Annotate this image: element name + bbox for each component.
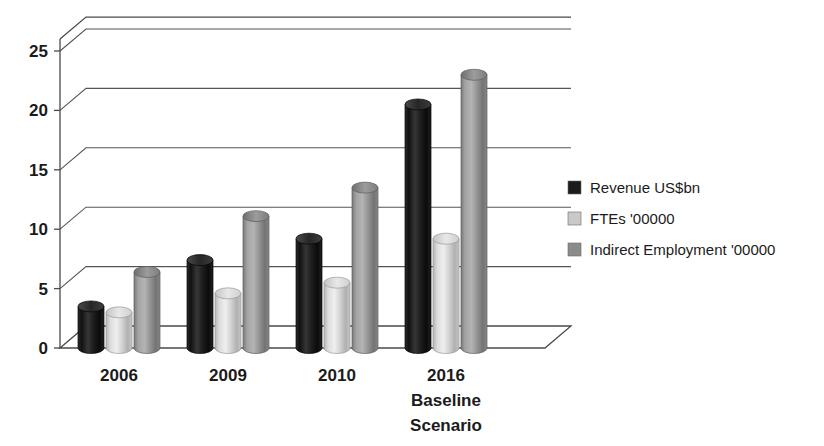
- category-label-2006-line-1: 2006: [100, 366, 138, 385]
- y-tick-label-0: 0: [39, 339, 48, 358]
- bar-top-cap: [405, 99, 431, 110]
- bar-body: [187, 260, 213, 353]
- bar-top-cap: [134, 266, 160, 277]
- y-tick-label-15: 15: [29, 161, 48, 180]
- legend-swatch: [568, 212, 581, 225]
- bar-body: [106, 312, 132, 353]
- legend-swatch: [568, 243, 581, 256]
- bar-body: [215, 293, 241, 353]
- bar-2009-series-3: [243, 211, 269, 354]
- y-tick-label-20: 20: [29, 101, 48, 120]
- bar-body: [78, 306, 104, 353]
- bar-2009-series-2: [215, 288, 241, 354]
- bar-2010-series-3: [352, 182, 378, 353]
- chart-container: 0510152025 2006200920102016BaselineScena…: [0, 0, 824, 446]
- bar-body: [324, 283, 350, 354]
- bar-top-cap: [215, 288, 241, 299]
- legend-swatch: [568, 181, 581, 194]
- bar-top-cap: [106, 307, 132, 318]
- bar-body: [134, 272, 160, 354]
- bar-2010-series-2: [324, 277, 350, 353]
- bar-2009-series-1: [187, 255, 213, 354]
- bar-body: [405, 104, 431, 353]
- bar-top-cap: [296, 233, 322, 244]
- category-label-2016-line-2: Baseline: [411, 391, 481, 410]
- bar-top-cap: [352, 182, 378, 193]
- category-label-2009-line-1: 2009: [209, 366, 247, 385]
- bar-body: [461, 75, 487, 354]
- bar-top-cap: [461, 69, 487, 80]
- bar-2010-series-1: [296, 233, 322, 353]
- category-label-2016-line-1: 2016: [427, 366, 465, 385]
- legend-label: Indirect Employment '00000: [590, 241, 775, 258]
- bar-body: [433, 239, 459, 354]
- legend-label: FTEs '00000: [590, 210, 675, 227]
- bar-2006-series-1: [78, 301, 104, 354]
- category-label-2016-line-3: Scenario: [410, 416, 482, 435]
- bar-body: [296, 239, 322, 354]
- bar-body: [352, 188, 378, 354]
- bar-2006-series-2: [106, 307, 132, 354]
- bar-2016-series-1: [405, 99, 431, 354]
- bar-top-cap: [187, 255, 213, 266]
- bar-top-cap: [78, 301, 104, 312]
- legend-label: Revenue US$bn: [590, 179, 700, 196]
- bar-top-cap: [243, 211, 269, 222]
- bar-top-cap: [324, 277, 350, 288]
- bar-2006-series-3: [134, 266, 160, 353]
- y-tick-label-5: 5: [39, 280, 48, 299]
- bar-2016-series-3: [461, 69, 487, 353]
- y-tick-label-25: 25: [29, 42, 48, 61]
- bar-2016-series-2: [433, 233, 459, 353]
- bar-chart-svg: 0510152025 2006200920102016BaselineScena…: [0, 0, 824, 446]
- category-label-2010-line-1: 2010: [318, 366, 356, 385]
- y-tick-label-10: 10: [29, 220, 48, 239]
- legend-item-3[interactable]: Indirect Employment '00000: [568, 241, 775, 258]
- bar-top-cap: [433, 233, 459, 244]
- bar-body: [243, 216, 269, 353]
